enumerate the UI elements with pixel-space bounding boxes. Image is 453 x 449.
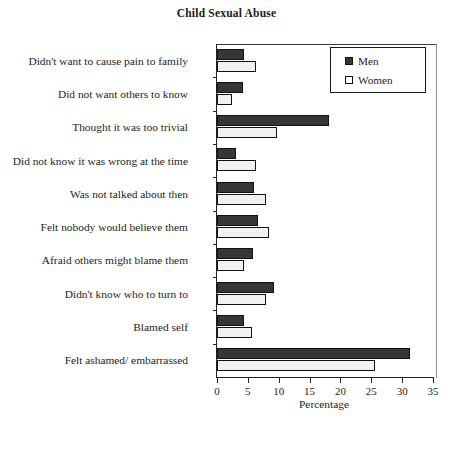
bar-men <box>217 49 244 60</box>
bar-women <box>217 61 256 72</box>
chart-legend: Men Women <box>330 47 426 93</box>
category-label: Thought it was too trivial <box>0 121 188 133</box>
category-tick <box>213 344 217 345</box>
chart-title: Child Sexual Abuse <box>0 7 453 19</box>
bar-men <box>217 148 236 159</box>
bar-men <box>217 348 410 359</box>
category-tick <box>213 211 217 212</box>
category-label: Felt ashamed/ embarrassed <box>0 354 188 366</box>
legend-item-men: Men <box>345 53 379 69</box>
x-axis-tick <box>433 377 434 383</box>
legend-item-women: Women <box>345 72 393 88</box>
x-axis-tick <box>217 377 218 383</box>
category-label: Blamed self <box>0 321 188 333</box>
plot-area: Didn't want to cause pain to familyDid n… <box>216 44 433 378</box>
chart-container: Child Sexual Abuse Didn't want to cause … <box>0 0 453 449</box>
bar-men <box>217 82 243 93</box>
x-axis-tick <box>279 377 280 383</box>
category-tick <box>213 77 217 78</box>
plot-right-border <box>436 44 437 378</box>
bar-women <box>217 160 256 171</box>
x-axis-tick <box>310 377 311 383</box>
category-label: Did not know it was wrong at the time <box>0 155 188 167</box>
category-label: Felt nobody would believe them <box>0 221 188 233</box>
category-label: Afraid others might blame them <box>0 254 188 266</box>
legend-label-men: Men <box>358 56 379 67</box>
category-tick <box>213 277 217 278</box>
x-axis-title: Percentage <box>216 398 432 410</box>
chart-row: Did not know it was wrong at the time <box>217 144 433 177</box>
chart-row: Thought it was too trivial <box>217 111 433 144</box>
bar-men <box>217 282 274 293</box>
bar-men <box>217 115 329 126</box>
chart-row: Was not talked about then <box>217 177 433 210</box>
x-axis-tick <box>371 377 372 383</box>
bar-men <box>217 248 253 259</box>
x-axis-tick <box>340 377 341 383</box>
chart-row: Didn't know who to turn to <box>217 277 433 310</box>
bar-women <box>217 127 277 138</box>
legend-swatch-women-icon <box>345 76 353 84</box>
chart-row: Blamed self <box>217 310 433 343</box>
bar-women <box>217 327 252 338</box>
bar-women <box>217 260 244 271</box>
x-axis-tick <box>248 377 249 383</box>
category-tick <box>213 244 217 245</box>
bar-men <box>217 182 254 193</box>
chart-row: Felt nobody would believe them <box>217 211 433 244</box>
chart-row: Felt ashamed/ embarrassed <box>217 344 433 377</box>
category-label: Did not want others to know <box>0 88 188 100</box>
category-tick <box>213 144 217 145</box>
category-tick <box>213 310 217 311</box>
chart-row: Afraid others might blame them <box>217 244 433 277</box>
category-tick <box>213 111 217 112</box>
category-tick <box>213 177 217 178</box>
bar-women <box>217 94 232 105</box>
x-axis-tick <box>402 377 403 383</box>
bar-women <box>217 360 375 371</box>
x-axis-tick-label: 35 <box>413 385 453 397</box>
legend-label-women: Women <box>358 75 393 86</box>
bar-women <box>217 227 269 238</box>
legend-swatch-men-icon <box>345 57 353 65</box>
category-label: Was not talked about then <box>0 188 188 200</box>
category-label: Didn't know who to turn to <box>0 288 188 300</box>
bar-men <box>217 315 244 326</box>
bar-women <box>217 294 266 305</box>
bar-women <box>217 194 266 205</box>
category-label: Didn't want to cause pain to family <box>0 55 188 67</box>
bar-men <box>217 215 258 226</box>
